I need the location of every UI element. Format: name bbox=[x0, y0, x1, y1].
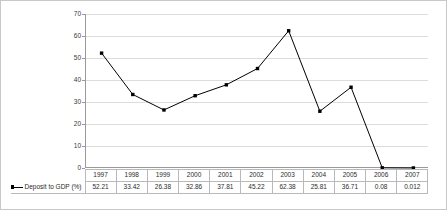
table-value-cell: 62.38 bbox=[272, 182, 303, 194]
table-category-cell: 1998 bbox=[116, 170, 147, 182]
y-axis-tick-mark bbox=[82, 80, 85, 81]
table-category-cell: 2000 bbox=[179, 170, 210, 182]
y-axis-tick-label: 40 bbox=[74, 77, 81, 84]
data-point-marker bbox=[162, 108, 165, 111]
table-value-cell: 32.86 bbox=[179, 182, 210, 194]
y-axis-tick-label: 70 bbox=[74, 11, 81, 18]
y-axis-tick-mark bbox=[82, 36, 85, 37]
y-axis-tick-mark bbox=[82, 58, 85, 59]
legend-series-label: Deposit to GDP (%) bbox=[25, 184, 82, 191]
table-value-cell: 0.08 bbox=[366, 182, 397, 194]
table-category-cell: 2005 bbox=[334, 170, 365, 182]
table-category-cell: 1997 bbox=[85, 170, 116, 182]
data-point-marker bbox=[100, 51, 103, 54]
data-point-marker bbox=[256, 67, 259, 70]
series-markers-group bbox=[100, 29, 415, 170]
plot-region: 010203040506070 bbox=[85, 14, 428, 168]
table-value-cell: 36.71 bbox=[334, 182, 365, 194]
data-point-marker bbox=[131, 93, 134, 96]
data-point-marker bbox=[193, 94, 196, 97]
table-value-cell: 26.38 bbox=[147, 182, 178, 194]
table-corner-cell bbox=[11, 170, 85, 182]
data-point-marker bbox=[318, 110, 321, 113]
plot-area bbox=[85, 14, 428, 168]
table-category-cell: 1999 bbox=[147, 170, 178, 182]
y-axis-tick-label: 50 bbox=[74, 55, 81, 62]
y-axis-tick-mark bbox=[82, 146, 85, 147]
table-value-cell: 37.81 bbox=[210, 182, 241, 194]
series-line-deposit-to-gdp bbox=[86, 14, 429, 168]
data-point-marker bbox=[287, 29, 290, 32]
y-axis-tick-mark bbox=[82, 102, 85, 103]
table-row-values: Deposit to GDP (%) 52.2133.4226.3832.863… bbox=[11, 182, 428, 194]
table-value-cell: 52.21 bbox=[85, 182, 116, 194]
data-point-marker bbox=[225, 83, 228, 86]
table-category-cell: 2007 bbox=[397, 170, 428, 182]
legend-entry: Deposit to GDP (%) bbox=[11, 182, 85, 194]
table-value-cell: 33.42 bbox=[116, 182, 147, 194]
y-axis-tick-label: 30 bbox=[74, 99, 81, 106]
table-category-cell: 2004 bbox=[303, 170, 334, 182]
table-category-cell: 2002 bbox=[241, 170, 272, 182]
y-axis-tick-label: 20 bbox=[74, 121, 81, 128]
table-value-cell: 0.012 bbox=[397, 182, 428, 194]
data-table: 1997199819992000200120022003200420052006… bbox=[11, 169, 428, 194]
table-value-cell: 25.81 bbox=[303, 182, 334, 194]
y-axis-tick-label: 60 bbox=[74, 33, 81, 40]
table-row-categories: 1997199819992000200120022003200420052006… bbox=[11, 170, 428, 182]
y-axis-tick-mark bbox=[82, 14, 85, 15]
chart-frame: 010203040506070 199719981999200020012002… bbox=[0, 0, 447, 210]
legend-line-marker-icon bbox=[11, 184, 23, 191]
table-category-cell: 2003 bbox=[272, 170, 303, 182]
table-category-cell: 2006 bbox=[366, 170, 397, 182]
series-polyline bbox=[102, 31, 414, 168]
data-point-marker bbox=[349, 86, 352, 89]
table-value-cell: 45.22 bbox=[241, 182, 272, 194]
y-axis-tick-mark bbox=[82, 124, 85, 125]
table-category-cell: 2001 bbox=[210, 170, 241, 182]
y-axis-tick-label: 10 bbox=[74, 143, 81, 150]
